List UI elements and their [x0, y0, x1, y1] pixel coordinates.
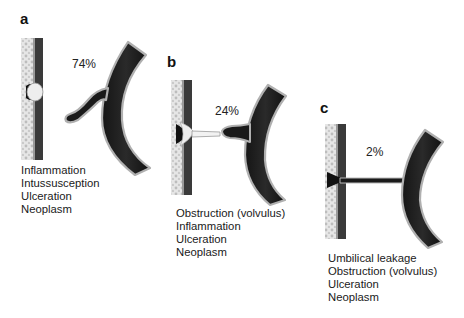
- panel-b-diagram: [171, 80, 286, 205]
- bowel-c: [402, 130, 443, 248]
- cause-item: Inflammation: [176, 220, 285, 233]
- panel-label-a: a: [20, 10, 28, 27]
- percentage-a: 74%: [72, 57, 96, 71]
- panel-c-diagram: [325, 124, 443, 248]
- panel-label-b: b: [167, 53, 176, 70]
- abdominal-wall-b: [171, 80, 194, 195]
- abdominal-wall-a: [21, 38, 43, 160]
- cause-item: Intussusception: [21, 177, 100, 190]
- percentage-c: 2%: [366, 145, 383, 159]
- omphalomesenteric-duct-b: [192, 131, 220, 137]
- cause-item: Ulceration: [328, 278, 437, 291]
- panel-label-c: c: [320, 99, 328, 116]
- fibrous-band-c: [340, 178, 406, 183]
- cause-item: Obstruction (volvulus): [328, 265, 437, 278]
- bowel-b: [222, 85, 286, 205]
- cause-item: Neoplasm: [21, 203, 100, 216]
- cause-item: Inflammation: [21, 164, 100, 177]
- cause-item: Obstruction (volvulus): [176, 207, 285, 220]
- cause-item: Neoplasm: [176, 246, 285, 259]
- causes-list-a: Inflammation Intussusception Ulceration …: [21, 164, 100, 216]
- causes-list-c: Umbilical leakage Obstruction (volvulus)…: [328, 252, 437, 304]
- cause-item: Ulceration: [21, 190, 100, 203]
- cause-item: Umbilical leakage: [328, 252, 437, 265]
- causes-list-b: Obstruction (volvulus) Inflammation Ulce…: [176, 207, 285, 259]
- cause-item: Neoplasm: [328, 291, 437, 304]
- cause-item: Ulceration: [176, 233, 285, 246]
- percentage-b: 24%: [215, 104, 239, 118]
